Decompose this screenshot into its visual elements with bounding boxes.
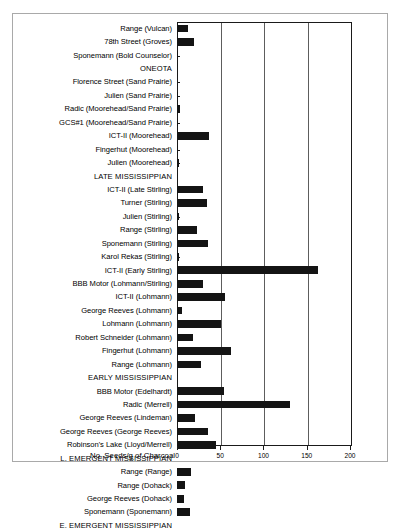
bar-track <box>175 62 389 75</box>
period-group-label: ONEOTA <box>13 65 175 73</box>
bar-row: Range (Lohmann) <box>13 358 389 371</box>
bar-track <box>175 130 389 143</box>
bar-row: ICT-II (Late Stirling) <box>13 183 389 196</box>
bar <box>177 414 195 422</box>
site-label: Turner (Stirling) <box>13 199 175 207</box>
bar-track <box>175 358 389 371</box>
bar-row: LATE MISSISSIPPIAN <box>13 170 389 183</box>
bar-track <box>175 506 389 519</box>
bar-row: Fingerhut (Moorehead) <box>13 143 389 156</box>
bar <box>177 495 185 503</box>
site-label: ICT-II (Early Stirling) <box>13 267 175 275</box>
site-label: Julien (Stirling) <box>13 213 175 221</box>
bar-row: Radic (Merrell) <box>13 398 389 411</box>
site-label: Lohmann (Lohmann) <box>13 320 175 328</box>
bar <box>177 428 208 436</box>
site-label: Julien (Sand Prairie) <box>13 92 175 100</box>
bar-row: EARLY MISSISSIPPIAN <box>13 371 389 384</box>
site-label: BBB Motor (Edelhardt) <box>13 388 175 396</box>
bar-track <box>175 465 389 478</box>
bar-row: Sponemann (Bold Counselor) <box>13 49 389 62</box>
site-label: Range (Vulcan) <box>13 25 175 33</box>
site-label: George Reeves (Lohmann) <box>13 307 175 315</box>
site-label: ICT-II (Moorehead) <box>13 132 175 140</box>
bar-track <box>175 143 389 156</box>
bar-track <box>175 277 389 290</box>
bar <box>177 280 203 288</box>
period-group-label: EARLY MISSISSIPPIAN <box>13 374 175 382</box>
bar-track <box>175 197 389 210</box>
site-label: Robert Schneider (Lohmann) <box>13 334 175 342</box>
site-label: Range (Dohack) <box>13 482 175 490</box>
bar-track <box>175 291 389 304</box>
bar-track <box>175 318 389 331</box>
site-label: Sponemann (Sponemann) <box>13 508 175 516</box>
bar-row: George Reeves (Lindeman) <box>13 412 389 425</box>
site-label: Sponemann (Bold Counselor) <box>13 52 175 60</box>
bar <box>177 186 204 194</box>
bar-track <box>175 116 389 129</box>
site-label: George Reeves (Dohack) <box>13 495 175 503</box>
bar <box>177 240 208 248</box>
bar <box>177 307 182 315</box>
bar-row: Julien (Sand Prairie) <box>13 89 389 102</box>
bar <box>177 226 198 234</box>
bar-track <box>175 385 389 398</box>
bar-row: George Reeves (George Reeves) <box>13 425 389 438</box>
bar-track <box>175 224 389 237</box>
site-label: Sponemann (Stirling) <box>13 240 175 248</box>
bar-row: ICT-II (Lohmann) <box>13 291 389 304</box>
bar-row: 78th Street (Groves) <box>13 35 389 48</box>
bar <box>177 253 180 261</box>
bar-row: Julien (Moorehead) <box>13 156 389 169</box>
site-label: Radic (Moorehead/Sand Prairie) <box>13 105 175 113</box>
bar <box>177 38 194 46</box>
x-tick-label: 150 <box>301 452 312 459</box>
bar-track <box>175 35 389 48</box>
bar-track <box>175 76 389 89</box>
bar <box>177 361 201 369</box>
bar-track <box>175 371 389 384</box>
bar-track <box>175 345 389 358</box>
bar-track <box>175 89 389 102</box>
bar-track <box>175 22 389 35</box>
bar-row: ONEOTA <box>13 62 389 75</box>
bar <box>177 92 179 100</box>
site-label: Range (Lohmann) <box>13 361 175 369</box>
site-label: Radic (Merrell) <box>13 401 175 409</box>
bar-row: Sponemann (Sponemann) <box>13 506 389 519</box>
bar <box>177 387 225 395</box>
bar-row: ICT-II (Moorehead) <box>13 130 389 143</box>
bar <box>177 334 193 342</box>
bar-track <box>175 425 389 438</box>
bar-track <box>175 170 389 183</box>
bar <box>177 159 180 167</box>
bar <box>177 508 191 516</box>
bar-track <box>175 398 389 411</box>
bar-row: Lohmann (Lohmann) <box>13 318 389 331</box>
bar-row: Florence Street (Sand Prairie) <box>13 76 389 89</box>
site-label: Florence Street (Sand Prairie) <box>13 78 175 86</box>
site-label: George Reeves (Lindeman) <box>13 414 175 422</box>
bar <box>177 213 180 221</box>
bar-row: Sponemann (Stirling) <box>13 237 389 250</box>
period-group-label: LATE MISSISSIPPIAN <box>13 173 175 181</box>
bar <box>177 347 231 355</box>
bar-track <box>175 304 389 317</box>
bar-row: GCS#1 (Moorehead/Sand Prairie) <box>13 116 389 129</box>
bar-track <box>175 331 389 344</box>
bar-row: Range (Dohack) <box>13 479 389 492</box>
bar <box>177 199 207 207</box>
bar <box>177 266 319 274</box>
site-label: ICT-II (Lohmann) <box>13 293 175 301</box>
bar-row: George Reeves (Lohmann) <box>13 304 389 317</box>
site-label: Range (Stirling) <box>13 226 175 234</box>
bar-track <box>175 183 389 196</box>
site-label: Robinson's Lake (Lloyd/Merrell) <box>13 441 175 449</box>
bar-track <box>175 156 389 169</box>
bar-row: ICT-II (Early Stirling) <box>13 264 389 277</box>
bar-track <box>175 210 389 223</box>
bar <box>177 25 188 33</box>
bar-row: Karol Rekas (Stirling) <box>13 250 389 263</box>
x-tick-label: 0 <box>175 452 179 459</box>
